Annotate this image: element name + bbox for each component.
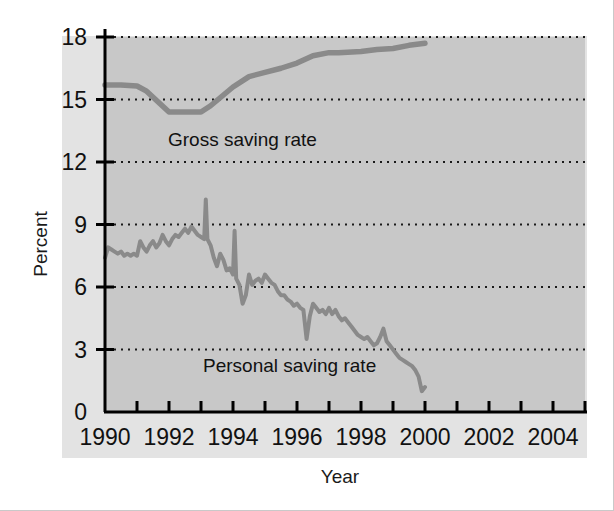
x-tick-label-2002: 2002 (463, 424, 514, 450)
x-tick-label-2004: 2004 (527, 424, 578, 450)
personal-saving-rate-label: Personal saving rate (203, 355, 376, 377)
y-tick-label-18: 18 (61, 24, 87, 50)
gross-saving-rate-label: Gross saving rate (168, 129, 317, 151)
x-tick-label-1990: 1990 (79, 424, 130, 450)
y-tick-label-3: 3 (74, 337, 87, 363)
y-tick-label-0: 0 (74, 399, 87, 425)
x-tick-label-1994: 1994 (207, 424, 258, 450)
y-tick-label-12: 12 (61, 149, 87, 175)
x-axis-label: Year (290, 466, 390, 488)
x-tick-label-1998: 1998 (335, 424, 386, 450)
y-tick-label-15: 15 (61, 87, 87, 113)
figure-container: 0369121518 19901992199419961998200020022… (0, 0, 614, 511)
x-tick-label-2000: 2000 (399, 424, 450, 450)
x-tick-label-1992: 1992 (143, 424, 194, 450)
saving-rate-chart: 0369121518 19901992199419961998200020022… (0, 0, 614, 511)
y-tick-label-9: 9 (74, 212, 87, 238)
x-tick-label-1996: 1996 (271, 424, 322, 450)
y-axis-label: Percent (30, 194, 52, 294)
y-tick-label-6: 6 (74, 274, 87, 300)
